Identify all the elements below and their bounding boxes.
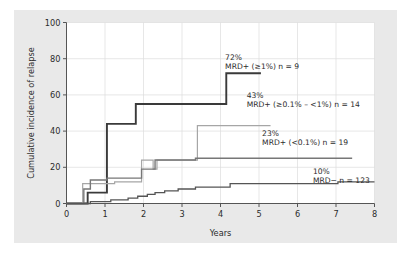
y-tick-label: 60 — [50, 90, 60, 100]
x-tick-label: 8 — [372, 209, 377, 219]
x-tick-label: 5 — [256, 209, 261, 219]
annotation-label: MRD+ (≥0.1% – <1%) n = 14 — [247, 100, 360, 109]
x-tick-label: 0 — [64, 209, 69, 219]
annotation-percent: 43% — [247, 91, 264, 100]
x-tick-label: 1 — [102, 209, 107, 219]
x-tick-label: 6 — [295, 209, 300, 219]
y-axis-ticks: 020406080100 — [45, 18, 67, 209]
x-tick-label: 3 — [179, 209, 184, 219]
x-tick-label: 4 — [218, 209, 223, 219]
annotation-label: MRD− n = 123 — [313, 176, 370, 185]
x-axis-label: Years — [209, 228, 232, 238]
y-axis-label: Cumulative incidence of relapse — [26, 47, 36, 179]
cumulative-incidence-of-relapse-chart: 020406080100 012345678 72%MRD+ (≥1%) n =… — [0, 0, 411, 254]
chart-plot-wrapper: 020406080100 012345678 72%MRD+ (≥1%) n =… — [0, 0, 411, 254]
x-tick-label: 2 — [141, 209, 146, 219]
annotation-percent: 72% — [225, 53, 242, 62]
y-tick-label: 0 — [55, 199, 60, 209]
x-axis-ticks: 012345678 — [64, 204, 377, 220]
x-tick-label: 7 — [333, 209, 338, 219]
annotation-percent: 23% — [262, 129, 279, 138]
annotation-label: MRD+ (≥1%) n = 9 — [225, 62, 299, 71]
y-tick-label: 20 — [50, 162, 60, 172]
y-tick-label: 80 — [50, 54, 60, 64]
y-tick-label: 40 — [50, 126, 60, 136]
y-tick-label: 100 — [45, 18, 61, 28]
annotation-label: MRD+ (<0.1%) n = 19 — [262, 138, 348, 147]
annotation-percent: 10% — [313, 167, 330, 176]
figure-container: 020406080100 012345678 72%MRD+ (≥1%) n =… — [0, 0, 411, 254]
